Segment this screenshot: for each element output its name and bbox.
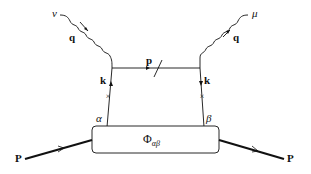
label-k-right: k	[204, 75, 210, 86]
label-nu: ν	[52, 8, 57, 19]
label-alpha: α	[96, 113, 102, 124]
label-P-out: P	[287, 153, 294, 164]
label-p: p	[146, 55, 152, 66]
svg-text:×: ×	[200, 92, 205, 101]
label-P-in: P	[15, 153, 22, 164]
photon-line-left	[60, 15, 112, 68]
phi-subscript: αβ	[152, 139, 160, 148]
svg-text:×: ×	[106, 92, 111, 101]
label-phi: Φαβ	[143, 133, 160, 148]
cut-mark	[154, 60, 162, 77]
label-q-left: q	[69, 32, 75, 43]
phi-symbol: Φ	[143, 132, 152, 146]
label-k-left: k	[100, 75, 106, 86]
proton-line-out	[219, 140, 284, 159]
label-beta: β	[206, 113, 211, 124]
proton-line-in	[25, 140, 92, 159]
label-q-right: q	[233, 32, 239, 43]
label-mu: μ	[252, 8, 258, 19]
photon-line-right	[200, 15, 248, 68]
feynman-diagram: × × ν μ q q p k k α β Φαβ P P	[0, 0, 311, 174]
